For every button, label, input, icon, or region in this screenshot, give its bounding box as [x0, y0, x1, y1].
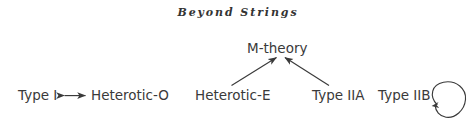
- node-type-i: Type I: [18, 89, 57, 103]
- node-type-iia: Type IIA: [312, 89, 365, 103]
- beyond-strings-figure: Beyond Strings: [0, 0, 476, 126]
- edge-type-iib-self-loop: [432, 82, 466, 118]
- node-type-iib: Type IIB: [378, 89, 431, 103]
- edge-type-iia-m-theory: [285, 58, 329, 86]
- node-heterotic-e: Heterotic-E: [195, 89, 270, 103]
- diagram-edges: [0, 0, 476, 126]
- edge-heterotic-e-m-theory: [232, 58, 277, 86]
- node-m-theory: M-theory: [247, 42, 307, 56]
- node-heterotic-o: Heterotic-O: [91, 89, 169, 103]
